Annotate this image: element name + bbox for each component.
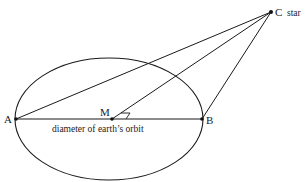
- line-mc: [112, 12, 271, 119]
- line-bc: [202, 12, 271, 119]
- label-c: C: [275, 6, 282, 18]
- parallax-diagram: A B M C star diameter of earth’s orbit: [0, 0, 305, 182]
- point-m-dot: [110, 117, 114, 121]
- point-a-dot: [14, 117, 18, 121]
- label-star: star: [287, 8, 302, 18]
- point-b-dot: [200, 117, 204, 121]
- right-angle-marker: [121, 113, 130, 119]
- label-m: M: [100, 106, 110, 118]
- label-b: B: [206, 114, 213, 126]
- point-c-dot: [269, 10, 273, 14]
- label-a: A: [4, 113, 12, 125]
- line-ac: [16, 12, 271, 119]
- label-diameter: diameter of earth’s orbit: [52, 124, 144, 134]
